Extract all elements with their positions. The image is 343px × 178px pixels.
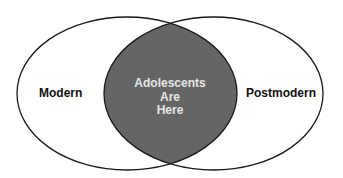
set-label-modern: Modern — [39, 87, 82, 100]
intersection-label-line-3: Here — [120, 104, 220, 118]
intersection-label-line-1: Adolescents — [120, 77, 220, 91]
set-label-postmodern: Postmodern — [246, 87, 316, 100]
intersection-label-line-2: Are — [120, 91, 220, 105]
intersection-label: Adolescents Are Here — [120, 77, 220, 118]
